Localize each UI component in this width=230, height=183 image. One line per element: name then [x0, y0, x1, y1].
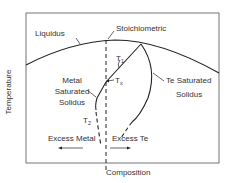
- excess-metal-label: Excess Metal: [48, 135, 96, 143]
- te-solidus-leader: [153, 73, 164, 81]
- metal-solidus-label-line1: Metal: [52, 77, 92, 85]
- t1-subscript: 1: [121, 58, 124, 64]
- excess-metal-arrowhead: [58, 147, 62, 150]
- liquidus-label: Liquidus: [35, 30, 65, 38]
- metal-solidus-label-line2: Saturated: [52, 88, 92, 96]
- metal-solidus-label-line3: Solidus: [52, 99, 92, 107]
- stoichiometric-label: Stoichiometric: [116, 25, 166, 33]
- te-saturated-solidus-curve: [132, 44, 152, 122]
- phase-diagram: Liquidus Stoichiometric T1 Tx T2 Metal S…: [0, 0, 230, 183]
- stoichiometric-leader: [108, 31, 114, 39]
- excess-te-arrowhead: [127, 147, 131, 150]
- x-axis-label: Composition: [106, 169, 150, 177]
- t1-label: T1: [116, 55, 124, 65]
- liquidus-leader: [76, 38, 80, 44]
- t2-label: T2: [83, 117, 91, 127]
- te-solidus-label-line2: Solidus: [176, 91, 202, 99]
- y-axis-label: Temperature: [5, 62, 13, 122]
- tx-label: Tx: [115, 77, 123, 87]
- excess-te-label: Excess Te: [112, 135, 148, 143]
- t2-subscript: 2: [88, 120, 91, 126]
- metal-solidus-dashed-extension: [96, 112, 101, 146]
- tx-subscript: x: [120, 80, 123, 86]
- te-solidus-label-line1: Te Saturated: [166, 77, 211, 85]
